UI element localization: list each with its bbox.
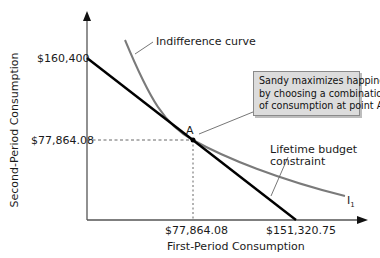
y-axis-label-text: Second-Period Consumption <box>8 52 21 207</box>
y-tick-mid: $77,864.08 <box>31 135 94 146</box>
curve-subscript: 1 <box>350 201 354 209</box>
y-tick-top: $160,400 <box>37 53 90 64</box>
callout-line-3: of consumption at point A. <box>259 100 354 113</box>
y-axis-label: Second-Period Consumption <box>4 40 24 220</box>
x-tick-mid: $77,864.08 <box>165 225 228 236</box>
callout-line-2: by choosing a combination <box>259 88 354 101</box>
x-axis-label: First-Period Consumption <box>167 241 305 252</box>
leader-callout <box>199 112 253 134</box>
budget-line-label-1: Lifetime budget <box>270 144 357 155</box>
point-a-marker <box>191 138 196 143</box>
indifference-curve-label: Indifference curve <box>156 36 256 47</box>
x-tick-right: $151,320.75 <box>266 225 336 236</box>
callout-line-1: Sandy maximizes happiness <box>259 75 354 88</box>
callout-box: Sandy maximizes happiness by choosing a … <box>253 71 360 116</box>
leader-indifference <box>135 42 153 54</box>
y-axis-arrow-icon <box>83 11 91 21</box>
budget-line-label-2: constraint <box>270 156 325 167</box>
x-axis-arrow-icon <box>357 216 368 224</box>
curve-name-label: I1 <box>347 195 355 209</box>
point-a-label: A <box>186 125 194 136</box>
